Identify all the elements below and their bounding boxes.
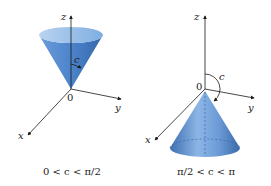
angle-c-label: c	[219, 71, 225, 82]
origin-label: 0	[67, 92, 73, 103]
origin-label: 0	[196, 81, 202, 92]
caption-left: 0 < c < π/2	[43, 166, 101, 177]
y-axis	[71, 89, 121, 99]
left-figure: c z y x 0 0 < c < π/2	[18, 11, 121, 177]
x-label: x	[145, 134, 151, 145]
z-label: z	[60, 11, 67, 22]
angle-c-label: c	[74, 54, 80, 65]
cone-diagram: c z y x 0 0 < c < π/2 c z y x 0 π/2 < c …	[0, 0, 271, 186]
x-label: x	[18, 130, 24, 141]
x-axis	[28, 89, 71, 135]
caption-right: π/2 < c < π	[177, 166, 235, 177]
y-label: y	[247, 102, 254, 113]
y-label: y	[114, 102, 121, 113]
right-figure: c z y x 0 π/2 < c < π	[145, 11, 254, 177]
y-axis	[205, 89, 254, 98]
z-label: z	[193, 11, 200, 22]
